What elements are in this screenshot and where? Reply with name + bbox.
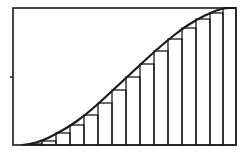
riemann-rectangle xyxy=(98,103,112,145)
riemann-rectangle xyxy=(112,90,126,145)
riemann-rectangle xyxy=(140,64,154,145)
riemann-rectangle xyxy=(70,125,84,145)
riemann-rectangle xyxy=(223,8,236,145)
plot-frame xyxy=(13,8,236,145)
function-curve xyxy=(22,8,236,145)
riemann-rectangle xyxy=(56,133,70,145)
riemann-sum-diagram xyxy=(0,0,250,158)
plot-area xyxy=(0,0,250,158)
riemann-rectangle xyxy=(84,115,98,145)
riemann-rectangle xyxy=(126,77,140,145)
riemann-rectangle xyxy=(182,28,196,145)
riemann-rectangles xyxy=(30,8,236,145)
riemann-rectangle xyxy=(196,19,210,145)
riemann-rectangle xyxy=(154,51,168,145)
riemann-rectangle xyxy=(210,13,223,145)
riemann-rectangle xyxy=(168,39,182,145)
